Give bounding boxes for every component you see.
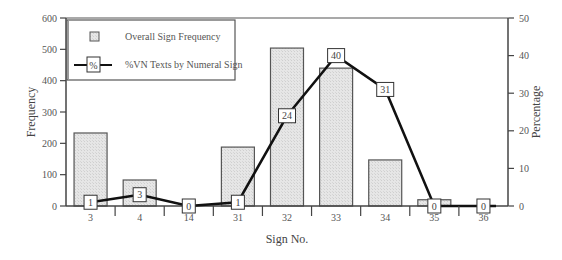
y2-tick-label: 40 — [519, 50, 529, 61]
x-tick-label: 35 — [429, 212, 439, 223]
point-label-33: 40 — [331, 50, 341, 61]
x-tick-label: 36 — [478, 212, 488, 223]
x-axis-title: Sign No. — [266, 232, 309, 246]
y-tick-label: 100 — [42, 169, 57, 180]
x-tick-label: 31 — [233, 212, 243, 223]
point-label-35: 0 — [432, 201, 437, 212]
point-label-36: 0 — [481, 201, 486, 212]
y-tick-label: 0 — [52, 201, 57, 212]
x-tick-label: 33 — [331, 212, 341, 223]
point-label-31: 1 — [235, 197, 240, 208]
x-tick-label: 4 — [137, 212, 142, 223]
y2-tick-label: 0 — [519, 201, 524, 212]
legend: Overall Sign Frequency%%VN Texts by Nume… — [67, 20, 242, 80]
point-label-3: 1 — [88, 197, 93, 208]
legend-bar-swatch-icon — [90, 32, 99, 41]
x-tick-label: 3 — [88, 212, 93, 223]
y-tick-label: 400 — [42, 75, 57, 86]
x-tick-label: 32 — [282, 212, 292, 223]
legend-marker-text: % — [89, 60, 97, 71]
y2-tick-label: 10 — [519, 163, 529, 174]
y2-tick-label: 30 — [519, 88, 529, 99]
legend-label-bar: Overall Sign Frequency — [125, 31, 221, 42]
bar-33 — [320, 68, 353, 206]
bar-34 — [369, 160, 402, 206]
y2-axis-title: Percentage — [529, 86, 543, 139]
y-axis-title: Frequency — [24, 87, 38, 138]
point-label-34: 31 — [380, 84, 390, 95]
point-label-14: 0 — [186, 201, 191, 212]
point-label-4: 3 — [137, 189, 142, 200]
point-label-32: 24 — [282, 110, 292, 121]
legend-label-line: %VN Texts by Numeral Sign — [125, 59, 242, 70]
y2-tick-label: 50 — [519, 13, 529, 24]
chart-canvas: Overall Sign Frequency%%VN Texts by Nume… — [0, 0, 562, 260]
x-tick-label: 34 — [380, 212, 390, 223]
bar-32 — [271, 48, 304, 206]
y-tick-label: 200 — [42, 138, 57, 149]
y-tick-label: 600 — [42, 13, 57, 24]
x-tick-label: 14 — [184, 212, 194, 223]
y2-tick-label: 20 — [519, 125, 529, 136]
y-tick-label: 300 — [42, 107, 57, 118]
y-tick-label: 500 — [42, 44, 57, 55]
